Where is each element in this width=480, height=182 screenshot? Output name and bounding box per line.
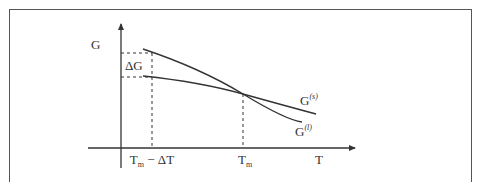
- curve-label-solid: G(s): [300, 92, 318, 108]
- tick-label-tm: Tm: [238, 152, 253, 169]
- curve-solid: [143, 76, 316, 114]
- free-energy-diagram: G ΔG T Tm − ΔT Tm G(s) G(l): [0, 0, 480, 182]
- x-axis-label: T: [315, 152, 323, 167]
- delta-g-label: ΔG: [125, 58, 143, 73]
- y-axis-label: G: [91, 37, 100, 52]
- curve-label-liquid: G(l): [295, 123, 312, 139]
- curve-liquid: [143, 49, 302, 122]
- tick-label-tm-minus-dt: Tm − ΔT: [130, 152, 174, 169]
